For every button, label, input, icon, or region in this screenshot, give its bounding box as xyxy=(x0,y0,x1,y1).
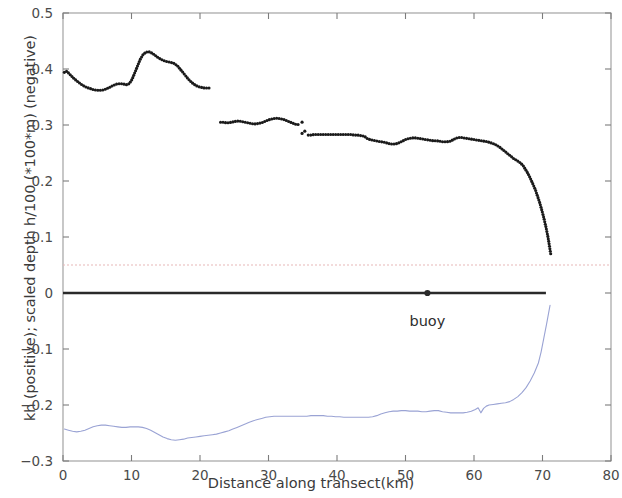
chart-figure: kh (positive); scaled depth h/100 (*100*… xyxy=(0,0,622,498)
x-tick-label: 20 xyxy=(191,467,208,483)
plot-canvas xyxy=(0,0,622,498)
x-tick-label: 50 xyxy=(397,467,414,483)
buoy-label: buoy xyxy=(409,313,445,329)
x-tick-label: 60 xyxy=(465,467,482,483)
axis-ticks xyxy=(63,13,611,461)
x-tick-label: 30 xyxy=(260,467,277,483)
data-series-layer xyxy=(63,50,611,440)
y-tick-label: −0.2 xyxy=(0,397,53,413)
x-tick-label: 80 xyxy=(602,467,619,483)
x-tick-label: 70 xyxy=(534,467,551,483)
x-tick-label: 10 xyxy=(123,467,140,483)
y-tick-label: 0.4 xyxy=(0,61,53,77)
kh-segment-1 xyxy=(63,50,211,91)
kh-isolated-dots xyxy=(300,121,306,135)
y-tick-label: 0.3 xyxy=(0,117,53,133)
x-tick-label: 0 xyxy=(59,467,68,483)
y-tick-label: −0.1 xyxy=(0,341,53,357)
axes-frame xyxy=(63,13,611,461)
y-tick-label: 0.1 xyxy=(0,229,53,245)
kh-segment-3 xyxy=(307,133,553,255)
y-tick-label: 0 xyxy=(0,285,53,301)
y-tick-label: 0.5 xyxy=(0,5,53,21)
buoy-marker xyxy=(424,290,430,296)
x-tick-label: 40 xyxy=(328,467,345,483)
y-tick-label: 0.2 xyxy=(0,173,53,189)
scaled depth h/100 (negative) xyxy=(64,305,550,440)
y-tick-label: −0.3 xyxy=(0,453,53,469)
kh-segment-2 xyxy=(219,117,300,126)
x-axis-label: Distance along transect(km) xyxy=(0,475,622,491)
